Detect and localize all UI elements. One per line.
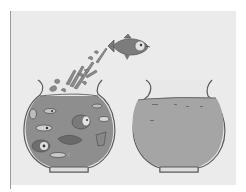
empty-bowl [133, 80, 225, 172]
fish-icon [72, 115, 90, 129]
fish-icon [92, 104, 102, 108]
fish-icon [32, 140, 50, 152]
crowded-bowl [24, 80, 115, 172]
fish-icon [30, 109, 37, 119]
fishbowl-illustration [0, 0, 246, 192]
fish-icon [99, 117, 109, 122]
fish-icon [44, 109, 56, 114]
leaping-fish [108, 34, 150, 60]
fish-icon [36, 125, 52, 131]
